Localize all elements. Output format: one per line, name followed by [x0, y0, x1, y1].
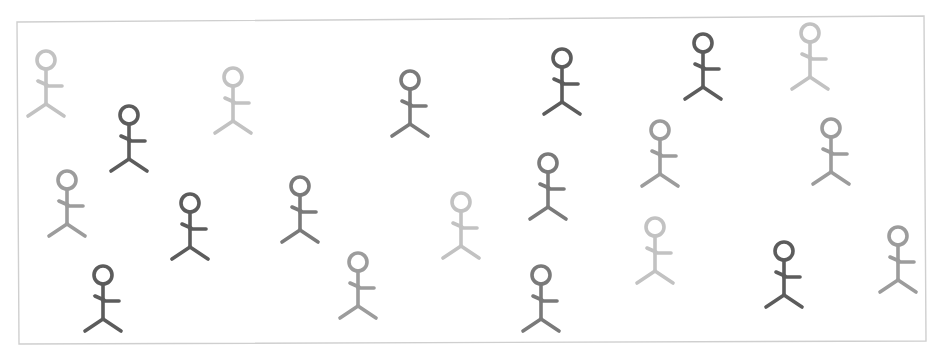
diagram-frame — [17, 16, 926, 344]
stick-figure-diagram — [0, 0, 939, 355]
